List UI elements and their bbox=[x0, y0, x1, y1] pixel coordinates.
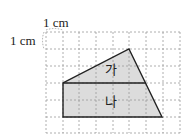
unit-bracket-vertical bbox=[43, 32, 45, 49]
region-label-ga: 가 bbox=[105, 63, 117, 76]
unit-bracket-horizontal bbox=[46, 29, 63, 31]
region-label-na: 나 bbox=[105, 95, 117, 108]
grid-diagram bbox=[0, 0, 192, 137]
